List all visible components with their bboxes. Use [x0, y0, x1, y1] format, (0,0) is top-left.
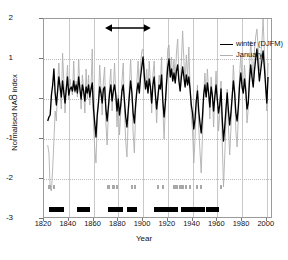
legend-label-january: January [236, 50, 263, 60]
period-double-arrow-annotation [105, 23, 151, 33]
x-tick-mark [43, 218, 44, 221]
nao-index-chart-figure: Normalised NAO index 210-1-2-3 winter (D… [0, 0, 288, 260]
gray-event-markers-segment [189, 185, 191, 189]
y-tick-label: -2 [0, 174, 13, 182]
y-axis-title: Normalised NAO index [10, 53, 19, 173]
x-tick-mark [142, 218, 143, 221]
x-tick-label: 2000 [249, 220, 283, 228]
x-tick-mark [216, 218, 217, 221]
gray-event-markers-segment [112, 185, 114, 189]
plot-area: winter (DJFM) January [43, 18, 272, 218]
black-period-bars-segment [49, 207, 64, 212]
black-period-bars-segment [108, 207, 123, 212]
gray-event-markers-segment [157, 185, 159, 189]
january-line-swatch-icon [220, 55, 233, 56]
x-axis-title: Year [0, 234, 288, 243]
y-tick-label: 2 [0, 14, 13, 22]
gray-event-markers-segment [185, 185, 187, 189]
gray-event-markers-segment [48, 185, 52, 189]
chart-legend: winter (DJFM) January [220, 39, 288, 61]
y-tick-label: -1 [0, 134, 13, 142]
black-period-bars-segment [127, 207, 137, 212]
gray-event-markers-segment [220, 185, 222, 189]
gray-event-markers-segment [131, 185, 133, 189]
winter-line-swatch-icon [220, 44, 233, 45]
black-period-bars-segment [181, 207, 205, 212]
gray-event-markers-segment [134, 185, 136, 189]
y-tick-label: 0 [0, 94, 13, 102]
winter-djfm-line [48, 49, 268, 141]
gray-event-markers-segment [175, 185, 177, 189]
x-tick-mark [68, 218, 69, 221]
legend-item-january: January [220, 50, 288, 60]
gray-event-markers-segment [196, 185, 198, 189]
y-tick-label: 1 [0, 54, 13, 62]
gray-event-markers-segment [181, 185, 183, 189]
x-tick-mark [93, 218, 94, 221]
x-tick-mark [241, 218, 242, 221]
x-tick-mark [167, 218, 168, 221]
legend-item-winter: winter (DJFM) [220, 39, 288, 49]
x-tick-mark [192, 218, 193, 221]
gray-event-markers-segment [200, 185, 202, 189]
gray-event-markers-segment [107, 185, 109, 189]
x-tick-mark [266, 218, 267, 221]
gray-event-markers-segment [116, 185, 118, 189]
x-tick-mark [117, 218, 118, 221]
y-tick-label: -3 [0, 214, 13, 222]
black-period-bars-segment [154, 207, 178, 212]
gray-event-markers-segment [53, 185, 55, 189]
gray-event-markers-segment [162, 185, 164, 189]
legend-label-winter: winter (DJFM) [236, 39, 283, 49]
black-period-bars-segment [77, 207, 89, 212]
black-period-bars-segment [206, 207, 218, 212]
